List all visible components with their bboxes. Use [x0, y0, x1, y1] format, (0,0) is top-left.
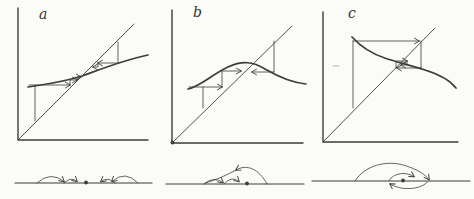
phase-a-arc1: [37, 176, 64, 183]
a-curve: [28, 55, 148, 87]
c-curve: [352, 37, 456, 88]
b-axes: [172, 10, 303, 143]
c-diagonal: [323, 28, 435, 142]
a-cobweb-right-step2: [93, 63, 98, 67]
c-axes: [323, 12, 458, 142]
panel-label-b: b: [193, 5, 202, 19]
b-curve: [188, 63, 306, 89]
phase-c-arc1: [355, 163, 429, 181]
phase-a-fixed-point-dot: [84, 181, 88, 185]
diagram-svg: [0, 0, 474, 199]
phase-b-fixed-point-dot: [245, 182, 249, 186]
phase-c-fixed-point-dot: [401, 179, 405, 183]
phase-c-arc2: [390, 182, 428, 189]
figure-canvas: a b c: [0, 0, 474, 199]
phase-b-arc2: [224, 179, 239, 184]
phase-b-big-arc-in: [236, 167, 267, 184]
panel-label-a: a: [39, 7, 47, 21]
drawing-layer: [15, 8, 470, 189]
a-diagonal: [18, 24, 134, 140]
panel-label-c: c: [348, 6, 356, 20]
phase-a-arc4: [112, 176, 138, 183]
